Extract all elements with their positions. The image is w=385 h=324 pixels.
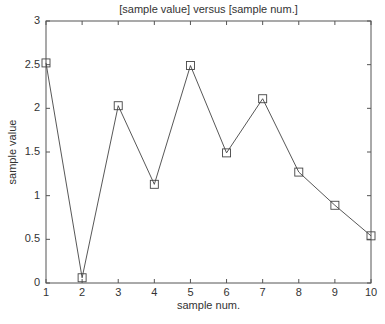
chart-title: [sample value] versus [sample num.] — [46, 3, 371, 15]
y-tick-label: 3 — [0, 14, 40, 26]
y-tick-label: 0 — [0, 276, 40, 288]
y-tick-label: 1.5 — [0, 145, 40, 157]
x-tick-label: 6 — [217, 286, 237, 298]
x-tick-label: 4 — [144, 286, 164, 298]
y-tick-label: 1 — [0, 189, 40, 201]
x-tick-label: 8 — [289, 286, 309, 298]
y-tick-label: 0.5 — [0, 232, 40, 244]
y-tick-label: 2 — [0, 101, 40, 113]
y-tick-label: 2.5 — [0, 58, 40, 70]
x-axis-label: sample num. — [46, 299, 371, 311]
x-tick-label: 3 — [108, 286, 128, 298]
line-chart — [0, 0, 385, 324]
x-tick-label: 2 — [72, 286, 92, 298]
plot-frame — [46, 21, 371, 283]
x-tick-label: 7 — [253, 286, 273, 298]
x-tick-label: 5 — [180, 286, 200, 298]
x-tick-label: 9 — [325, 286, 345, 298]
x-tick-label: 10 — [361, 286, 381, 298]
series-line — [46, 63, 371, 278]
